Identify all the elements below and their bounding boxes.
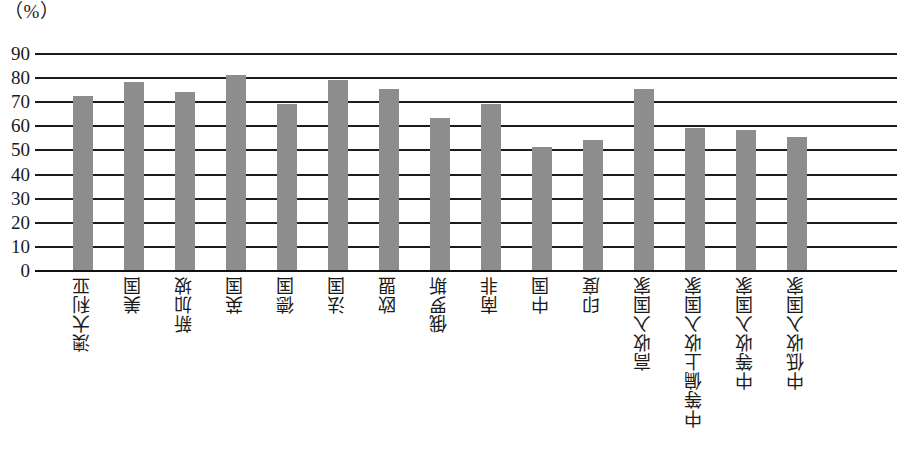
x-axis-category-label: 南非 — [480, 276, 502, 314]
y-axis-tick-label: 0 — [0, 261, 30, 280]
bar — [226, 75, 246, 270]
y-axis-tick-label: 30 — [0, 188, 30, 207]
x-axis-category-label: 美国 — [123, 276, 145, 314]
x-axis-category-label: 德国 — [276, 276, 298, 314]
bar — [532, 147, 552, 270]
bar — [481, 104, 501, 270]
gridline — [35, 77, 897, 79]
bar-chart: （%） 9080706050403020100 澳大利亚美国新加坡英国德国法国欧… — [0, 0, 897, 473]
gridline — [35, 101, 897, 103]
x-axis-category-label: 中等偏上收入国家 — [684, 276, 706, 428]
x-axis-category-labels: 澳大利亚美国新加坡英国德国法国欧盟俄罗斯南非中国印度高收入国家中等偏上收入国家中… — [35, 272, 897, 473]
bar — [124, 82, 144, 270]
bar — [787, 137, 807, 270]
gridline — [35, 125, 897, 127]
x-axis-category-label: 英国 — [225, 276, 247, 314]
plot-area — [35, 53, 897, 270]
x-axis-category-label: 欧盟 — [378, 276, 400, 314]
y-axis-tick-label: 40 — [0, 164, 30, 183]
bar — [736, 130, 756, 270]
bar — [685, 128, 705, 270]
x-axis-category-label: 中低收入国家 — [786, 276, 808, 390]
gridline — [35, 246, 897, 248]
y-axis-tick-label: 70 — [0, 92, 30, 111]
y-axis-tick-label: 50 — [0, 140, 30, 159]
x-axis-category-label: 中等收入国家 — [735, 276, 757, 390]
y-axis-tick-label: 90 — [0, 44, 30, 63]
x-axis-category-label: 高收入国家 — [633, 276, 655, 371]
gridline — [35, 222, 897, 224]
bar — [277, 104, 297, 270]
bar — [328, 80, 348, 270]
gridline — [35, 53, 897, 55]
bar — [430, 118, 450, 270]
y-axis-tick-label: 20 — [0, 212, 30, 231]
bar — [175, 92, 195, 270]
y-axis-tick-label: 80 — [0, 68, 30, 87]
gridline — [35, 198, 897, 200]
bar — [634, 89, 654, 270]
x-axis-category-label: 法国 — [327, 276, 349, 314]
x-axis-category-label: 俄罗斯 — [429, 276, 451, 333]
x-axis-category-label: 中国 — [531, 276, 553, 314]
x-axis-category-label: 新加坡 — [174, 276, 196, 333]
y-axis-tick-label: 60 — [0, 116, 30, 135]
bar — [583, 140, 603, 270]
gridline — [35, 149, 897, 151]
x-axis-category-label: 印度 — [582, 276, 604, 314]
bar — [379, 89, 399, 270]
bar — [73, 96, 93, 270]
y-axis-unit-label: （%） — [4, 2, 59, 21]
y-axis-tick-label: 10 — [0, 236, 30, 255]
gridline — [35, 174, 897, 176]
x-axis-category-label: 澳大利亚 — [72, 276, 94, 352]
